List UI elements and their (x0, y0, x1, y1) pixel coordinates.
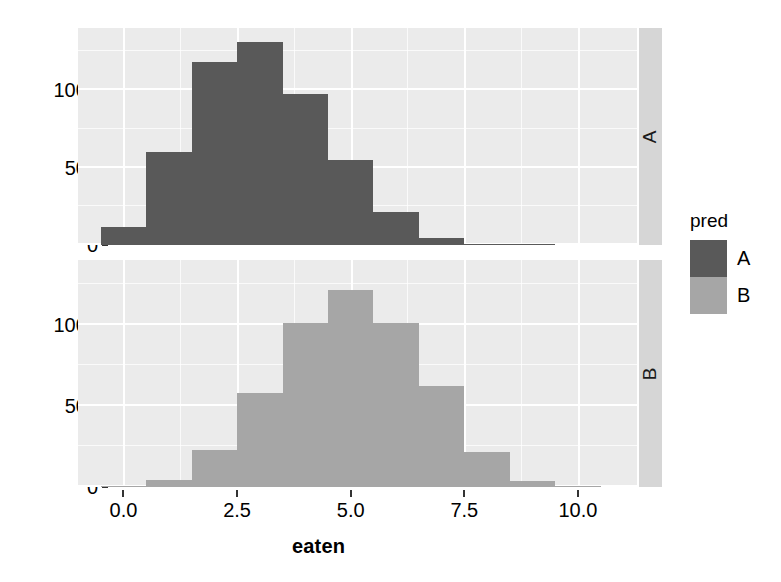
histogram-bar (373, 212, 418, 245)
x-axis-title: eaten (0, 535, 637, 558)
gridline-minor-horizontal (78, 50, 637, 51)
facet-strip-label-A: A (640, 130, 662, 143)
facet-panel-A (78, 28, 637, 245)
legend-items: AB (690, 240, 750, 314)
facet-strip-B: B (639, 260, 662, 487)
histogram-bar (146, 480, 191, 487)
histogram-bar (328, 160, 373, 245)
histogram-bar (192, 62, 237, 245)
legend-label: A (737, 247, 750, 270)
gridline-major-horizontal (78, 88, 637, 90)
histogram-bar (328, 290, 373, 487)
gridline-minor-vertical (521, 28, 522, 245)
histogram-bar (237, 393, 282, 487)
x-axis-tick-label: 10.0 (558, 500, 597, 520)
gridline-major-vertical (464, 28, 466, 245)
histogram-bar (510, 481, 555, 487)
histogram-bar (464, 244, 509, 245)
x-axis-tick-mark (122, 490, 124, 497)
histogram-bar (373, 323, 418, 487)
x-axis-tick-label: 7.5 (450, 500, 478, 520)
x-axis-tick-mark (350, 490, 352, 497)
facet-strip-A: A (639, 28, 662, 245)
gridline-minor-horizontal (78, 283, 637, 284)
panel-A-plot-area (78, 28, 637, 245)
x-axis-tick-label: 5.0 (337, 500, 365, 520)
histogram-bar (101, 227, 146, 245)
facet-strip-label-B: B (640, 367, 662, 380)
chart-root: 0500100005001000 A B 0.02.55.07.510.0 ea… (0, 0, 781, 582)
x-axis-tick-label: 2.5 (223, 500, 251, 520)
x-axis-tick-mark (236, 490, 238, 497)
legend: pred AB (690, 210, 750, 314)
legend-item: B (690, 277, 750, 314)
histogram-bar (237, 42, 282, 245)
gridline-major-vertical (578, 28, 580, 245)
histogram-bar (419, 238, 464, 245)
histogram-bar (555, 486, 600, 487)
histogram-bar (192, 450, 237, 487)
histogram-bar (283, 94, 328, 245)
x-axis-tick-mark (463, 490, 465, 497)
legend-label: B (737, 284, 750, 307)
gridline-minor-vertical (521, 260, 522, 487)
histogram-bar (283, 323, 328, 487)
legend-item: A (690, 240, 750, 277)
histogram-bar (419, 386, 464, 487)
histogram-bar (146, 152, 191, 245)
gridline-major-vertical (123, 28, 125, 245)
gridline-major-vertical (123, 260, 125, 487)
histogram-bar (464, 452, 509, 487)
panel-B-plot-area (78, 260, 637, 487)
gridline-major-vertical (578, 260, 580, 487)
gridline-minor-horizontal (78, 128, 637, 129)
x-axis-tick-label: 0.0 (110, 500, 138, 520)
legend-title: pred (690, 210, 750, 232)
histogram-bar (510, 244, 555, 245)
x-axis-tick-mark (577, 490, 579, 497)
legend-swatch (690, 277, 727, 314)
facet-panel-B (78, 260, 637, 487)
legend-swatch (690, 240, 727, 277)
histogram-bar (101, 486, 146, 487)
gridline-minor-vertical (180, 260, 181, 487)
